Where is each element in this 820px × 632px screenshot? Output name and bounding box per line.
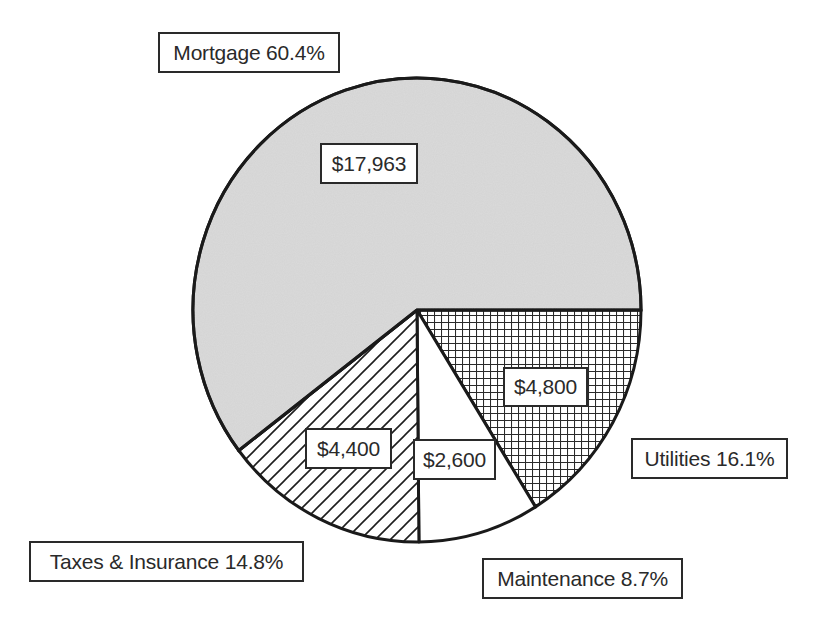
- pie-chart-canvas: [0, 0, 820, 632]
- maintenance-category-label: Maintenance 8.7%: [482, 558, 683, 599]
- taxes-insurance-category-label: Taxes & Insurance 14.8%: [29, 541, 304, 582]
- utilities-category-label: Utilities 16.1%: [631, 438, 788, 479]
- pie-chart: Mortgage 60.4% $17,963 $4,800 Utilities …: [0, 0, 820, 632]
- utilities-value-label: $4,800: [503, 367, 588, 407]
- mortgage-value-label: $17,963: [320, 143, 418, 184]
- mortgage-category-label: Mortgage 60.4%: [158, 32, 340, 73]
- taxes-insurance-value-label: $4,400: [305, 428, 392, 469]
- maintenance-value-label: $2,600: [413, 439, 496, 480]
